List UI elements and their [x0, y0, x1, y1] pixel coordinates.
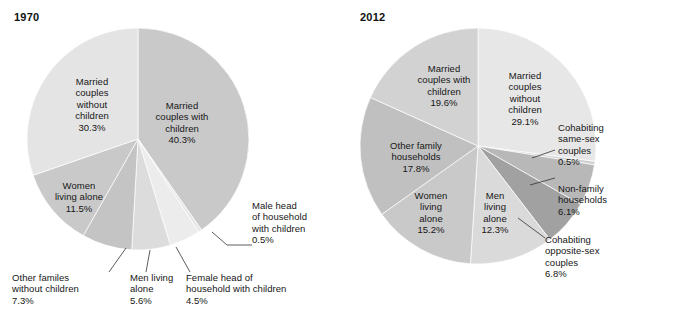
slice-label-other-families-without-children-1970: Other familes without children 7.3%: [12, 272, 117, 306]
leader-female-head: [176, 247, 190, 272]
pie-chart-1970: 1970 Married couples without children 30…: [0, 0, 340, 326]
leader-men-living-alone: [146, 250, 150, 272]
leader-male-head: [212, 232, 252, 245]
slice-label-non-family-households-2012: Non-family households 6.1%: [558, 183, 654, 217]
slice-label-cohabiting-same-sex-couples-2012: Cohabiting same-sex couples 0.5%: [558, 122, 654, 168]
slice-label-women-living-alone-1970: Women living alone 11.5%: [32, 180, 126, 214]
slice-label-female-head-of-household-1970: Female head of household with children 4…: [186, 272, 326, 306]
slice-label-cohabiting-opposite-sex-couples-2012: Cohabiting opposite-sex couples 6.8%: [545, 234, 649, 280]
slice-label-married-couples-without-children-2012: Married couples without children 29.1%: [482, 70, 568, 127]
slice-label-married-couples-without-children-1970: Married couples without children 30.3%: [46, 76, 138, 133]
leader-other-families: [109, 248, 126, 272]
slice-label-married-couples-with-children-1970: Married couples with children 40.3%: [135, 100, 229, 146]
slice-label-women-living-alone-2012: Women living alone 15.2%: [398, 190, 464, 236]
slice-label-male-head-of-household-1970: Male head of household with children 0.5…: [252, 200, 338, 246]
slice-label-other-family-households-2012: Other family households 17.8%: [366, 140, 466, 174]
slice-label-men-living-alone-2012: Men living alone 12.3%: [466, 190, 524, 236]
slice-label-married-couples-with-children-2012: Married couples with children 19.6%: [392, 63, 496, 109]
pie-chart-2012: 2012 Married couples with children 19.6%…: [340, 0, 680, 326]
